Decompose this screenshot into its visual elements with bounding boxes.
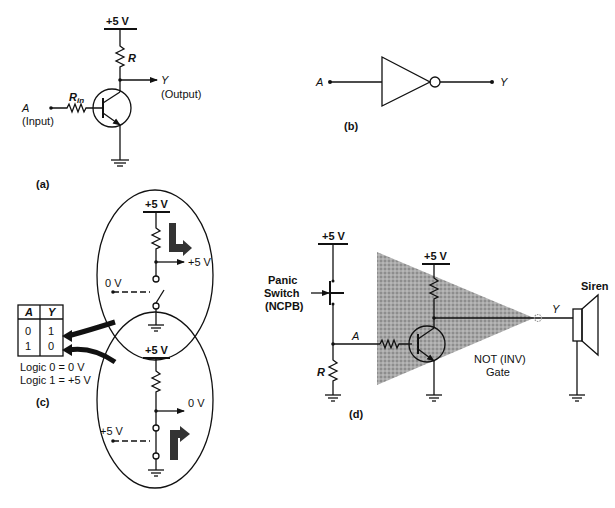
output-label: +5 V [188,256,212,268]
not-gate-figure: +5 V R Y (Output) Rin A (Input) (a) A [0,0,615,508]
panel-a-caption: (a) [36,178,50,190]
output-label: 0 V [188,397,205,409]
output-label: Y [500,76,508,88]
gate-name-line1: NOT (INV) [474,353,526,365]
current-flow-arrow [170,426,190,460]
inversion-bubble [430,77,440,87]
node-a-label: A [351,330,359,342]
ground-icon [569,395,585,401]
panel-d-panic-alarm-circuit: +5 V Panic Switch (NCPB) A R [264,230,609,420]
truth-table: A Y 0 1 1 0 [18,305,63,356]
ground-icon [325,395,341,401]
gate-name-line2: Gate [486,366,510,378]
input-label: +5 V [100,425,124,437]
panel-c-switch-analogy: A Y 0 1 1 0 Logic 0 = 0 V Logic 1 = +5 V… [18,190,213,488]
switch-contact [153,303,159,309]
output-label: Y [552,303,560,315]
switch-supply-label: +5 V [322,230,346,242]
panel-a-transistor-inverter: +5 V R Y (Output) Rin A (Input) (a) [21,15,201,190]
gate-supply-label: +5 V [424,250,448,262]
pulldown-resistor-label: R [317,366,325,378]
header-a: A [24,306,33,318]
cell: 1 [48,325,54,337]
input-desc: (Input) [22,115,54,127]
switch-contact [153,425,159,431]
panel-b-caption: (b) [344,120,358,132]
supply-label: +5 V [106,15,130,27]
switch-lever-open [156,290,164,303]
resistor-label: R [128,52,136,64]
switch-closed-circle: +5 V 0 V +5 V [97,312,213,488]
panel-d-caption: (d) [349,408,363,420]
push-button-switch-icon [330,280,344,306]
current-flow-arrow [169,223,192,256]
siren-label: Siren [581,280,609,292]
switch-contact [153,276,159,282]
pulldown-resistor [329,344,337,392]
supply-label: +5 V [145,344,169,356]
panel-b-not-gate-symbol: A Y (b) [315,57,508,132]
switch-label-line3: (NCPB) [265,300,304,312]
cell: 0 [25,325,31,337]
output-label: Y [161,74,169,86]
logic-definition-0: Logic 0 = 0 V [20,361,85,373]
base-resistor-label: Rin [69,91,84,105]
switch-contact [153,453,159,459]
header-y: Y [48,306,57,318]
output-desc: (Output) [161,88,201,100]
ground-icon [426,395,442,401]
ground-icon [111,160,129,166]
input-label: A [21,102,29,114]
panel-c-caption: (c) [36,396,50,408]
collector-resistor [116,29,124,80]
input-label: A [315,76,323,88]
emitter-arrow [103,113,120,125]
cell: 0 [48,340,54,352]
cell: 1 [25,340,31,352]
logic-definition-1: Logic 1 = +5 V [20,374,92,386]
switch-label-line2: Switch [264,287,300,299]
switch-open-circle: +5 V +5 V 0 V [97,190,213,360]
input-label: 0 V [105,277,122,289]
supply-label: +5 V [145,198,169,210]
base-resistor [51,104,103,112]
switch-label-line1: Panic [268,274,297,286]
output-node [490,80,494,84]
buffer-triangle [382,57,430,106]
